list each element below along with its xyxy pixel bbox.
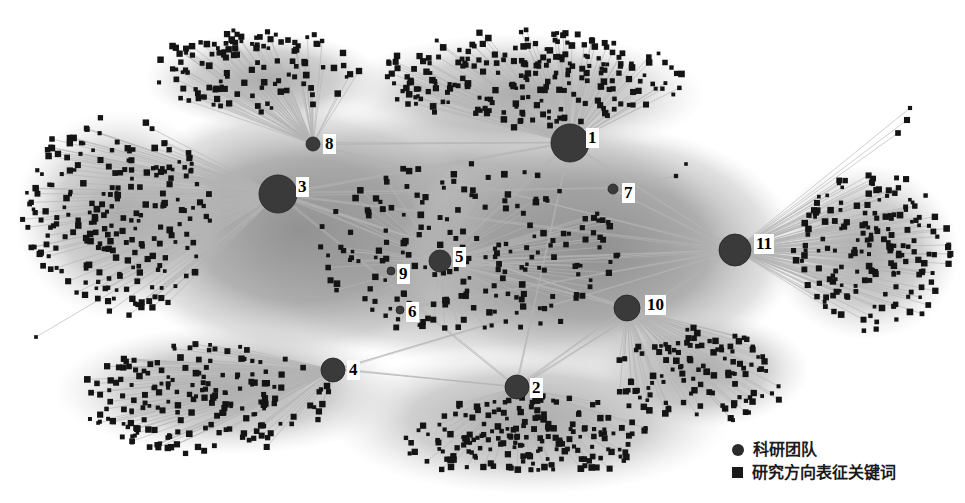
square-marker-icon: [732, 467, 743, 478]
team-node-8[interactable]: [306, 137, 320, 151]
team-node-label-9: 9: [397, 264, 410, 284]
team-node-label-11: 11: [754, 234, 774, 254]
team-node-6[interactable]: [396, 306, 404, 314]
team-node-9[interactable]: [387, 267, 395, 275]
legend-label-keyword: 研究方向表征关键词: [752, 464, 896, 482]
team-node-label-2: 2: [530, 378, 543, 398]
team-node-3[interactable]: [259, 175, 297, 213]
legend: 科研团队 研究方向表征关键词: [728, 438, 963, 484]
team-node-2[interactable]: [505, 375, 529, 399]
legend-item-keyword: 研究方向表征关键词: [728, 461, 963, 484]
team-node-label-10: 10: [645, 295, 666, 315]
team-node-1[interactable]: [551, 124, 589, 162]
circle-marker-icon: [732, 444, 744, 456]
team-node-label-6: 6: [406, 302, 419, 322]
team-node-4[interactable]: [321, 358, 345, 382]
team-node-label-5: 5: [453, 247, 466, 267]
team-node-label-3: 3: [296, 177, 309, 197]
team-node-label-8: 8: [323, 134, 336, 154]
team-node-5[interactable]: [429, 250, 451, 272]
network-graph-figure: 1234567891011 科研团队 研究方向表征关键词: [0, 0, 965, 503]
team-node-label-1: 1: [586, 128, 599, 148]
network-canvas: [0, 0, 965, 503]
team-node-label-4: 4: [347, 360, 360, 380]
team-node-label-7: 7: [622, 183, 635, 203]
team-node-11[interactable]: [719, 234, 751, 266]
team-node-10[interactable]: [614, 295, 640, 321]
team-node-7[interactable]: [608, 184, 618, 194]
legend-label-team: 科研团队: [753, 441, 817, 459]
legend-item-team: 科研团队: [728, 438, 963, 461]
